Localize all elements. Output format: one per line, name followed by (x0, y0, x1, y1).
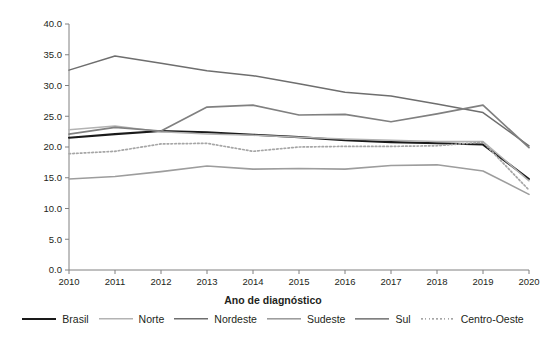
series-line-centro-oeste (69, 142, 529, 190)
legend-swatch-icon (22, 314, 56, 324)
y-axis-tick-label: 30.0 (44, 80, 63, 91)
legend-label: Sudeste (307, 313, 346, 325)
x-axis-tick-label: 2012 (150, 276, 171, 287)
x-axis-title: Ano de diagnóstico (0, 294, 546, 306)
x-axis-tick-label: 2016 (334, 276, 355, 287)
legend-swatch-icon (355, 314, 389, 324)
line-chart-plot: 0.05.010.015.020.025.030.035.040.0201020… (0, 0, 546, 300)
chart-container: Taxa de detecção (x100 mil hab.) 0.05.01… (0, 0, 546, 346)
x-axis-tick-label: 2011 (105, 276, 125, 287)
legend-label: Centro-Oeste (461, 313, 524, 325)
legend-swatch-icon (174, 314, 208, 324)
series-line-sudeste (69, 165, 529, 195)
x-axis-tick-label: 2014 (242, 276, 263, 287)
series-line-norte (69, 126, 529, 181)
y-axis-tick-label: 35.0 (44, 49, 63, 60)
x-axis-tick-label: 2019 (472, 276, 493, 287)
x-axis-tick-label: 2020 (518, 276, 539, 287)
y-axis-tick-label: 10.0 (44, 203, 63, 214)
legend-swatch-icon (99, 314, 133, 324)
legend-swatch-icon (267, 314, 301, 324)
y-axis-tick-label: 25.0 (44, 111, 63, 122)
legend-label: Nordeste (214, 313, 257, 325)
y-axis-tick-label: 20.0 (44, 141, 63, 152)
legend-label: Sul (395, 313, 410, 325)
y-axis-tick-label: 5.0 (49, 234, 62, 245)
legend-item-sul[interactable]: Sul (355, 313, 410, 325)
x-axis-tick-label: 2013 (196, 276, 217, 287)
x-axis-tick-label: 2018 (426, 276, 447, 287)
x-axis-tick-label: 2017 (380, 276, 401, 287)
x-axis-tick-label: 2010 (58, 276, 79, 287)
chart-legend: BrasilNorteNordesteSudesteSulCentro-Oest… (0, 313, 546, 325)
legend-item-norte[interactable]: Norte (99, 313, 165, 325)
y-axis-tick-label: 15.0 (44, 172, 63, 183)
x-axis-tick-label: 2015 (288, 276, 309, 287)
legend-label: Norte (139, 313, 165, 325)
legend-item-nordeste[interactable]: Nordeste (174, 313, 257, 325)
y-axis-tick-label: 0.0 (49, 264, 62, 275)
series-line-brasil (69, 131, 529, 179)
legend-label: Brasil (62, 313, 88, 325)
legend-item-centro-oeste[interactable]: Centro-Oeste (421, 313, 524, 325)
y-axis-tick-label: 40.0 (44, 18, 63, 29)
legend-swatch-icon (421, 314, 455, 324)
legend-item-brasil[interactable]: Brasil (22, 313, 88, 325)
legend-item-sudeste[interactable]: Sudeste (267, 313, 346, 325)
